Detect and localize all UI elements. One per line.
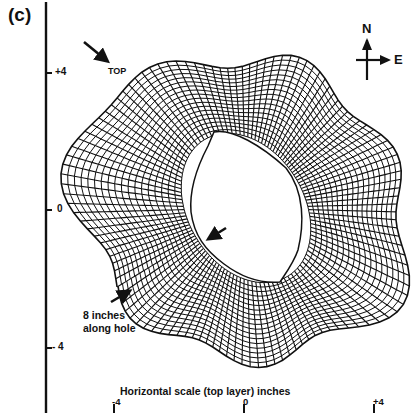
- compass-east-label: E: [394, 52, 403, 67]
- along-hole-annotation: 8 inches along hole: [83, 309, 136, 335]
- top-marker-label: TOP: [108, 66, 126, 76]
- along-hole-line1: 8 inches: [83, 309, 136, 322]
- compass-icon: [356, 38, 391, 80]
- y-tick-label-zero: 0: [57, 203, 63, 214]
- x-tick-label-plus4: +4: [373, 396, 384, 407]
- x-tick-label-minus4: -4: [112, 396, 120, 407]
- x-axis-title: Horizontal scale (top layer) inches: [120, 385, 290, 397]
- y-tick-label-plus4: +4: [55, 66, 66, 77]
- compass-north-label: N: [362, 21, 371, 36]
- x-tick-label-zero: 0: [243, 396, 248, 407]
- top-arrow: [84, 42, 106, 60]
- y-tick-label-minus4: - 4: [52, 341, 64, 352]
- borehole-opening: [191, 131, 302, 282]
- panel-label: (c): [8, 4, 31, 26]
- along-hole-line2: along hole: [83, 322, 136, 335]
